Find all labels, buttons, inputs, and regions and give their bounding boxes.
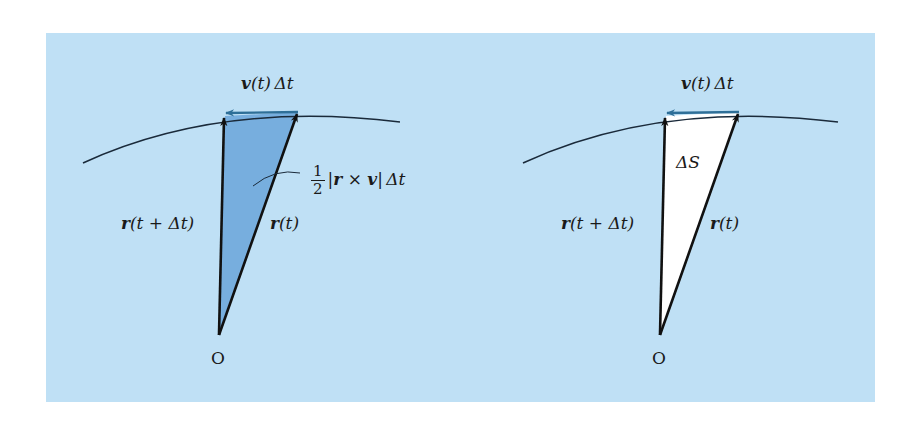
position-r-t-label: r(t) bbox=[270, 215, 299, 232]
velocity-arrow bbox=[667, 112, 739, 113]
area-delta-s-label: ΔS bbox=[676, 154, 700, 171]
origin-label: O bbox=[652, 350, 666, 367]
position-r-t-plus-dt-label: r(t + Δt) bbox=[561, 215, 634, 232]
fraction-numerator: 1 bbox=[311, 163, 325, 181]
orbit-diagram-svg bbox=[0, 0, 921, 423]
vector-v: v bbox=[681, 73, 691, 93]
vector-r: r bbox=[710, 213, 719, 233]
velocity-arrow bbox=[226, 112, 298, 113]
vector-v: v bbox=[367, 169, 377, 189]
velocity-displacement-label: v(t) Δt bbox=[241, 75, 294, 92]
origin-label: O bbox=[211, 350, 225, 367]
label-text: (t) bbox=[719, 213, 739, 233]
vector-v: v bbox=[241, 73, 251, 93]
label-text: (t + Δt) bbox=[570, 213, 634, 233]
vector-r: r bbox=[270, 213, 279, 233]
position-r-t-plus-dt-label: r(t + Δt) bbox=[121, 215, 194, 232]
label-text: (t) Δt bbox=[251, 73, 294, 93]
position-r-t-label: r(t) bbox=[710, 215, 739, 232]
cross-product-sign: × bbox=[342, 169, 367, 189]
vector-r: r bbox=[333, 169, 342, 189]
label-text: (t) Δt bbox=[691, 73, 734, 93]
velocity-displacement-label: v(t) Δt bbox=[681, 75, 734, 92]
one-half-fraction: 12 bbox=[311, 163, 325, 197]
label-text: (t + Δt) bbox=[130, 213, 194, 233]
label-text: (t) bbox=[279, 213, 299, 233]
vector-r: r bbox=[561, 213, 570, 233]
abs-close-dt: | Δt bbox=[377, 169, 405, 189]
fraction-denominator: 2 bbox=[313, 181, 323, 198]
area-formula-label: 12|r × v| Δt bbox=[311, 163, 405, 197]
vector-r: r bbox=[121, 213, 130, 233]
